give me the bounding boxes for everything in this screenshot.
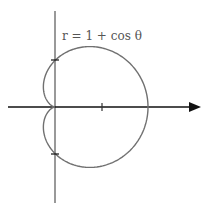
equation-label: r = 1 + cos θ [62,29,142,43]
arrow-right-icon [189,102,201,112]
cardioid-diagram: r = 1 + cos θ [0,0,209,213]
